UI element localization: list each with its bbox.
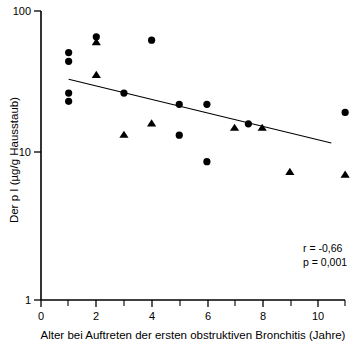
- y-tick-label-10: 10: [19, 146, 31, 158]
- data-point-circle: [65, 49, 72, 56]
- x-tick-label-2: 2: [93, 310, 99, 322]
- y-tick-label-100: 100: [13, 5, 31, 17]
- x-axis: 0 2 4 6 8 10: [38, 300, 345, 322]
- x-tick-label-8: 8: [260, 310, 266, 322]
- data-point-circle: [148, 37, 155, 44]
- data-point-triangle: [341, 170, 350, 177]
- scatter-plot-figure: 100 10 1 0 2 4 6 8 10 Alter bei Auftret: [0, 0, 356, 343]
- data-point-circle: [342, 109, 349, 116]
- x-tick-label-10: 10: [312, 310, 324, 322]
- data-point-triangle: [119, 131, 128, 138]
- data-markers-layer: [65, 33, 350, 177]
- y-tick-label-1: 1: [25, 294, 31, 306]
- data-point-circle: [65, 90, 72, 97]
- pvalue-annotation: p = 0,001: [303, 256, 347, 268]
- x-tick-label-0: 0: [38, 310, 44, 322]
- regression-line: [69, 79, 332, 143]
- y-axis-title: Der p I (µg/g Hausstaub): [8, 97, 20, 223]
- data-point-triangle: [92, 38, 101, 45]
- x-tick-label-6: 6: [205, 310, 211, 322]
- data-point-triangle: [147, 119, 156, 126]
- chart-canvas: 100 10 1 0 2 4 6 8 10 Alter bei Auftret: [0, 0, 356, 343]
- data-point-triangle: [92, 71, 101, 78]
- data-point-circle: [65, 98, 72, 105]
- data-point-triangle: [230, 124, 239, 131]
- data-point-triangle: [285, 168, 294, 175]
- data-point-circle: [65, 58, 72, 65]
- data-point-circle: [203, 101, 210, 108]
- data-point-circle: [176, 132, 183, 139]
- correlation-annotation: r = -0,66: [303, 242, 343, 254]
- x-axis-title: Alter bei Auftreten der ersten obstrukti…: [41, 329, 346, 341]
- x-tick-label-4: 4: [149, 310, 155, 322]
- data-point-circle: [203, 158, 210, 165]
